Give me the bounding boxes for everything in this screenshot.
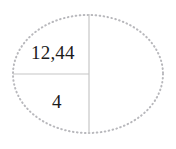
lower-left-region-value: 4	[52, 92, 62, 111]
figure-canvas: 12,44 4	[0, 0, 176, 149]
upper-left-region-value: 12,44	[31, 43, 75, 62]
ellipse-partition-svg	[0, 0, 176, 149]
